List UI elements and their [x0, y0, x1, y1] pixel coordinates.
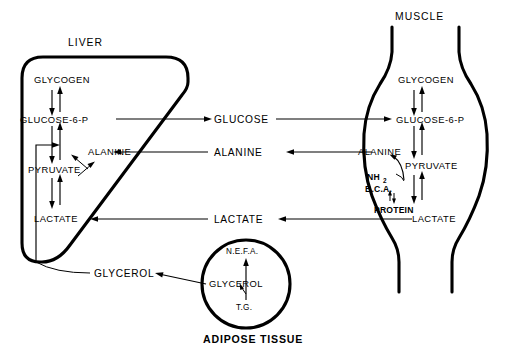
transport-glucose-arrowhead-left [204, 116, 212, 122]
muscle-nh2-label: NH [367, 172, 380, 182]
liver-g6p-to-pyruvate-arrowhead [49, 156, 55, 164]
muscle-g6p-to-pyruvate-arrowhead [411, 151, 417, 159]
muscle-protein-label: PROTEIN [374, 205, 414, 215]
liver-g6p-to-glycogen-arrowhead [57, 86, 63, 94]
muscle-g6p-to-glycogen-arrowhead [419, 86, 425, 94]
transport-glycerol-arrowhead [155, 272, 164, 277]
muscle-lactate-label: LACTATE [412, 213, 456, 224]
muscle-pyruvate-label: PYRUVATE [405, 160, 458, 171]
transport-glycerol-tail-to-liver [36, 262, 90, 273]
adipose-glycerol-label: GLYCEROL [209, 278, 263, 289]
muscle-label: MUSCLE [395, 11, 444, 22]
muscle-nh2-subscript: 2 [383, 177, 387, 184]
liver-alanine-label: ALANINE [88, 146, 131, 157]
transport-alanine-arrowhead-right [286, 149, 294, 155]
liver-glycogen-label: GLYCOGEN [34, 74, 90, 85]
transport-alanine-label: ALANINE [214, 147, 263, 158]
transport-glucose-label: GLUCOSE [214, 114, 269, 125]
adipose-tg-label: T.G. [236, 303, 252, 312]
muscle-lactate-to-pyruvate-arrowhead [419, 171, 425, 179]
liver-outline [22, 57, 188, 262]
muscle-bca-to-protein-arrowhead [392, 199, 396, 205]
muscle-pyruvate-to-lactate-arrowhead [411, 196, 417, 204]
adipose-label: ADIPOSE TISSUE [203, 333, 303, 345]
muscle-bca-label: B.C.A. [365, 184, 392, 194]
liver-glycerol-entry-arrowhead [52, 142, 60, 148]
muscle-glucose-6-p-label: GLUCOSE-6-P [396, 114, 465, 125]
muscle-alanine-label: ALANINE [358, 146, 401, 157]
adipose-tg-to-nefa-arrowhead [243, 258, 249, 266]
transport-lactate-arrowhead-right [278, 216, 286, 222]
transport-glycerol-line [159, 274, 206, 284]
liver-glucose-6-p-label: GLUCOSE-6-P [20, 114, 89, 125]
liver-pyruvate-to-lactate-arrowhead [49, 201, 55, 209]
muscle-outline-left [364, 27, 399, 292]
muscle-glycogen-label: GLYCOGEN [398, 74, 454, 85]
metabolic-pathway-diagram: LIVER MUSCLE ADIPOSE TISSUE GLYCOGEN GLU… [0, 0, 511, 352]
liver-label: LIVER [68, 37, 103, 48]
muscle-nh2-to-transamination-line [396, 174, 404, 181]
adipose-nefa-label: N.E.F.A. [226, 247, 258, 256]
diagram-canvas: LIVER MUSCLE ADIPOSE TISSUE GLYCOGEN GLU… [0, 0, 511, 352]
transport-lactate-label: LACTATE [214, 214, 263, 225]
muscle-pyruvate-to-alanine-curve [393, 156, 404, 180]
liver-lactate-label: LACTATE [34, 213, 78, 224]
liver-lactate-to-pyruvate-arrowhead [57, 174, 63, 182]
transport-glucose-arrowhead-right [384, 116, 392, 122]
liver-pyruvate-label: PYRUVATE [28, 164, 81, 175]
transport-glycerol-label: GLYCEROL [94, 268, 154, 279]
